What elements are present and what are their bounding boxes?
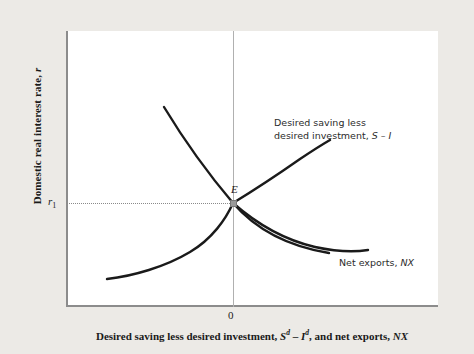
y-axis-label-symbol: r <box>31 68 43 72</box>
x-tick-label-zero: 0 <box>228 309 234 321</box>
x-axis-label-part1: Desired saving less desired investment, <box>96 330 280 342</box>
x-axis-label-part2: , and net exports, <box>309 330 393 342</box>
x-axis-label: Desired saving less desired investment, … <box>66 328 438 342</box>
equilibrium-label: E <box>231 183 238 195</box>
y-axis-label-text: Domestic real interest rate, <box>31 72 43 204</box>
figure-screenshot: E Domestic real interest rate, r r1 0 De… <box>0 0 474 354</box>
y-tick-label-subscript: 1 <box>52 201 56 210</box>
equilibrium-point-marker <box>230 200 237 207</box>
net-exports-curve <box>107 158 368 279</box>
x-axis-label-nx: NX <box>393 330 408 342</box>
si-annotation-symbol: S – I <box>372 130 392 141</box>
saving-less-investment-lower-branch <box>233 203 368 251</box>
si-annotation-line2: desired investment, <box>274 130 372 141</box>
nx-annotation-prefix: Net exports, <box>339 257 400 268</box>
y-axis-label: Domestic real interest rate, r <box>31 31 43 241</box>
net-exports-upper-branch <box>233 140 330 203</box>
net-exports-annotation: Net exports, NX <box>339 256 414 269</box>
si-annotation-line1: Desired saving less <box>274 117 366 128</box>
saving-less-investment-annotation: Desired saving lessdesired investment, S… <box>274 116 391 142</box>
y-tick-label-r1: r1 <box>48 195 56 210</box>
x-axis-label-minus: – <box>290 330 301 342</box>
nx-annotation-symbol: NX <box>400 257 414 268</box>
net-exports-curve-path-upper <box>233 148 368 250</box>
net-exports-curve-path <box>107 203 233 279</box>
curves-layer <box>0 0 474 354</box>
